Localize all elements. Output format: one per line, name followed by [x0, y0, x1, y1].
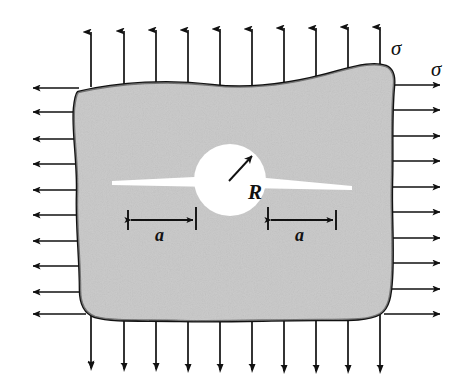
schematic-svg: [0, 0, 473, 392]
radius-label: R: [248, 182, 262, 203]
tension-arrows-bottom: [91, 315, 380, 371]
figure-root: σ σ R a a: [0, 0, 473, 392]
tension-arrowheads-bottom: [88, 362, 384, 374]
sigma-label-top: σ: [391, 38, 401, 59]
dimension-label-a-right: a: [295, 226, 304, 244]
sigma-label-right: σ: [431, 59, 441, 80]
dimension-label-a-left: a: [155, 226, 164, 244]
